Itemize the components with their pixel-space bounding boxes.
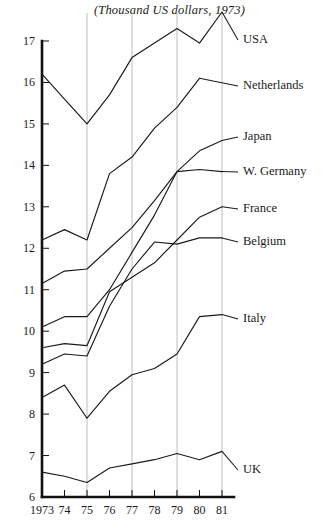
series-leader-italy: [222, 315, 238, 319]
chart-root: (Thousand US dollars, 1973) 678910111213…: [0, 0, 335, 529]
series-label-w-germany: W. Germany: [243, 164, 307, 178]
y-tick-label-14: 14: [23, 158, 35, 172]
x-tick-label-1980: 80: [194, 503, 206, 517]
y-tick-label-15: 15: [23, 117, 35, 131]
x-tick-label-1974: 74: [59, 503, 71, 517]
y-tick-label-8: 8: [29, 407, 35, 421]
y-tick-label-9: 9: [29, 366, 35, 380]
series-leader-netherlands: [200, 78, 239, 86]
x-tick-label-1973: 1973: [30, 503, 54, 517]
line-chart-svg: 6789101112131415161719737475767778798081…: [0, 0, 335, 529]
y-tick-label-17: 17: [23, 34, 35, 48]
y-tick-label-12: 12: [23, 241, 35, 255]
series-leader-belgium: [222, 238, 238, 242]
series-leader-uk: [222, 451, 238, 470]
series-label-italy: Italy: [243, 311, 267, 325]
series-leader-japan: [222, 137, 238, 140]
y-tick-label-6: 6: [29, 490, 35, 504]
y-tick-label-16: 16: [23, 75, 35, 89]
series-leader-usa: [222, 12, 238, 40]
series-label-usa: USA: [243, 32, 268, 46]
y-tick-label-10: 10: [23, 324, 35, 338]
x-tick-label-1976: 76: [104, 503, 116, 517]
series-label-netherlands: Netherlands: [243, 78, 304, 92]
y-tick-label-13: 13: [23, 200, 35, 214]
series-label-belgium: Belgium: [243, 234, 286, 248]
series-label-japan: Japan: [243, 129, 272, 143]
x-tick-label-1978: 78: [149, 503, 161, 517]
series-line-netherlands: [42, 78, 200, 240]
x-tick-label-1975: 75: [81, 503, 93, 517]
series-label-uk: UK: [243, 462, 261, 476]
x-tick-label-1981: 81: [216, 503, 228, 517]
series-leader-france: [222, 207, 238, 209]
series-label-france: France: [243, 201, 277, 215]
x-tick-label-1977: 77: [126, 503, 138, 517]
y-tick-label-7: 7: [29, 449, 35, 463]
x-tick-label-1979: 79: [171, 503, 183, 517]
y-tick-label-11: 11: [23, 283, 35, 297]
